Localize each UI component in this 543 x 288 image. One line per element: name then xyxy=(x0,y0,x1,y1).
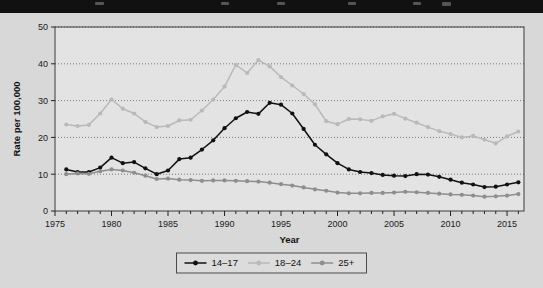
data-point xyxy=(189,156,193,160)
legend-label-2: 18–24 xyxy=(275,257,301,268)
data-point xyxy=(313,143,317,147)
data-point xyxy=(211,138,215,142)
data-point xyxy=(200,108,204,112)
y-axis-title: Rate per 100,000 xyxy=(11,82,22,157)
data-point xyxy=(313,187,317,191)
data-point xyxy=(392,174,396,178)
data-point xyxy=(234,179,238,183)
data-point xyxy=(415,121,419,125)
data-point xyxy=(324,189,328,193)
data-point xyxy=(132,171,136,175)
data-point xyxy=(448,178,452,182)
data-point xyxy=(505,182,509,186)
legend-marker-3 xyxy=(320,261,325,266)
data-point xyxy=(313,102,317,106)
data-point xyxy=(369,119,373,123)
x-axis-title: Year xyxy=(279,234,299,245)
data-point xyxy=(109,156,113,160)
data-point xyxy=(245,179,249,183)
data-point xyxy=(505,134,509,138)
data-point xyxy=(437,192,441,196)
data-point xyxy=(211,178,215,182)
data-point xyxy=(245,71,249,75)
data-point xyxy=(64,167,68,171)
data-point xyxy=(211,97,215,101)
legend-marker-2 xyxy=(256,261,261,266)
data-point xyxy=(381,173,385,177)
data-point xyxy=(403,117,407,121)
data-point xyxy=(290,83,294,87)
bar-speck xyxy=(221,2,229,5)
data-point xyxy=(302,127,306,131)
data-point xyxy=(437,175,441,179)
bar-speck xyxy=(277,2,285,5)
data-point xyxy=(516,180,520,184)
data-point xyxy=(415,172,419,176)
data-point xyxy=(98,169,102,173)
xtick-label: 1995 xyxy=(271,219,291,229)
data-point xyxy=(290,111,294,115)
data-point xyxy=(166,168,170,172)
data-point xyxy=(505,193,509,197)
data-point xyxy=(358,117,362,121)
ytick-label: 50 xyxy=(38,22,48,32)
data-point xyxy=(121,107,125,111)
xtick-label: 1975 xyxy=(45,219,65,229)
data-point xyxy=(177,157,181,161)
data-point xyxy=(279,182,283,186)
data-point xyxy=(369,191,373,195)
data-point xyxy=(302,92,306,96)
data-point xyxy=(143,166,147,170)
data-point xyxy=(335,191,339,195)
data-point xyxy=(471,134,475,138)
data-point xyxy=(494,185,498,189)
xtick-label: 2010 xyxy=(441,219,461,229)
data-point xyxy=(166,124,170,128)
data-point xyxy=(155,177,159,181)
data-point xyxy=(381,114,385,118)
data-point xyxy=(234,63,238,67)
data-point xyxy=(87,123,91,127)
data-point xyxy=(222,178,226,182)
bar-speck xyxy=(348,2,356,5)
data-point xyxy=(177,118,181,122)
data-point xyxy=(76,171,80,175)
data-point xyxy=(64,172,68,176)
data-point xyxy=(76,124,80,128)
xtick-label: 1985 xyxy=(158,219,178,229)
data-point xyxy=(471,193,475,197)
data-point xyxy=(460,193,464,197)
data-point xyxy=(268,64,272,68)
data-point xyxy=(494,194,498,198)
data-point xyxy=(471,182,475,186)
data-point xyxy=(358,170,362,174)
data-point xyxy=(347,191,351,195)
data-point xyxy=(302,185,306,189)
legend-marker-1 xyxy=(193,261,198,266)
data-point xyxy=(290,184,294,188)
ytick-label: 0 xyxy=(43,206,48,216)
data-point xyxy=(403,190,407,194)
data-point xyxy=(279,103,283,107)
ytick-label: 30 xyxy=(38,96,48,106)
data-point xyxy=(335,161,339,165)
data-point xyxy=(426,172,430,176)
data-point xyxy=(516,192,520,196)
data-point xyxy=(256,112,260,116)
data-point xyxy=(200,179,204,183)
data-point xyxy=(392,191,396,195)
bar-speck xyxy=(442,2,451,6)
ytick-label: 20 xyxy=(38,133,48,143)
data-point xyxy=(268,101,272,105)
data-point xyxy=(245,110,249,114)
ytick-label: 10 xyxy=(38,170,48,180)
data-point xyxy=(256,58,260,62)
xtick-label: 2000 xyxy=(328,219,348,229)
data-point xyxy=(437,129,441,133)
data-point xyxy=(143,120,147,124)
xtick-label: 2005 xyxy=(384,219,404,229)
data-point xyxy=(177,178,181,182)
data-point xyxy=(256,179,260,183)
data-point xyxy=(460,135,464,139)
data-point xyxy=(381,191,385,195)
